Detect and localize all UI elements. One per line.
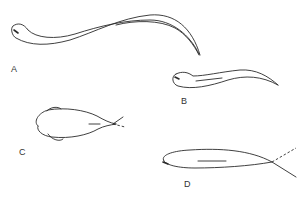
panel-c-drawing — [36, 107, 125, 140]
panel-a-label: A — [11, 64, 17, 74]
panel-a-drawing — [12, 15, 200, 55]
panel-d-label: D — [184, 179, 191, 189]
panel-b-drawing — [173, 70, 278, 88]
panel-c-label: C — [19, 147, 26, 157]
figure-canvas: A B C D — [0, 0, 306, 200]
panel-d-drawing — [163, 148, 296, 177]
panel-b-label: B — [181, 96, 187, 106]
